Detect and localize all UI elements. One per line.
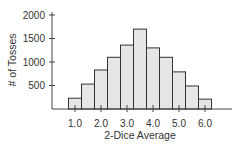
x-axis-title: 2-Dice Average bbox=[104, 129, 176, 141]
bar-3.0 bbox=[121, 45, 134, 109]
y-tick-label: 1500 bbox=[23, 33, 46, 44]
x-tick-label: 2.0 bbox=[94, 118, 108, 129]
y-axis-ticks: 500100015002000 bbox=[23, 10, 55, 92]
x-tick-label: 1.0 bbox=[68, 118, 82, 129]
bar-2.0 bbox=[95, 70, 108, 109]
bar-3.5 bbox=[134, 29, 147, 109]
bar-5.0 bbox=[173, 72, 186, 109]
x-tick-label: 6.0 bbox=[198, 118, 212, 129]
histogram-chart: 500100015002000 1.02.03.04.05.06.0 2-Dic… bbox=[0, 0, 247, 150]
x-tick-label: 5.0 bbox=[172, 118, 186, 129]
bar-2.5 bbox=[108, 57, 121, 109]
bar-4.5 bbox=[160, 57, 173, 109]
bar-4.0 bbox=[147, 48, 160, 109]
x-tick-label: 4.0 bbox=[146, 118, 160, 129]
bars-group bbox=[69, 29, 212, 109]
bar-5.5 bbox=[186, 86, 199, 109]
y-tick-label: 500 bbox=[28, 80, 45, 91]
y-tick-label: 2000 bbox=[23, 10, 46, 21]
bar-1.5 bbox=[82, 84, 95, 109]
x-tick-label: 3.0 bbox=[120, 118, 134, 129]
y-tick-label: 1000 bbox=[23, 57, 46, 68]
y-axis-title: # of Tosses bbox=[6, 34, 18, 87]
